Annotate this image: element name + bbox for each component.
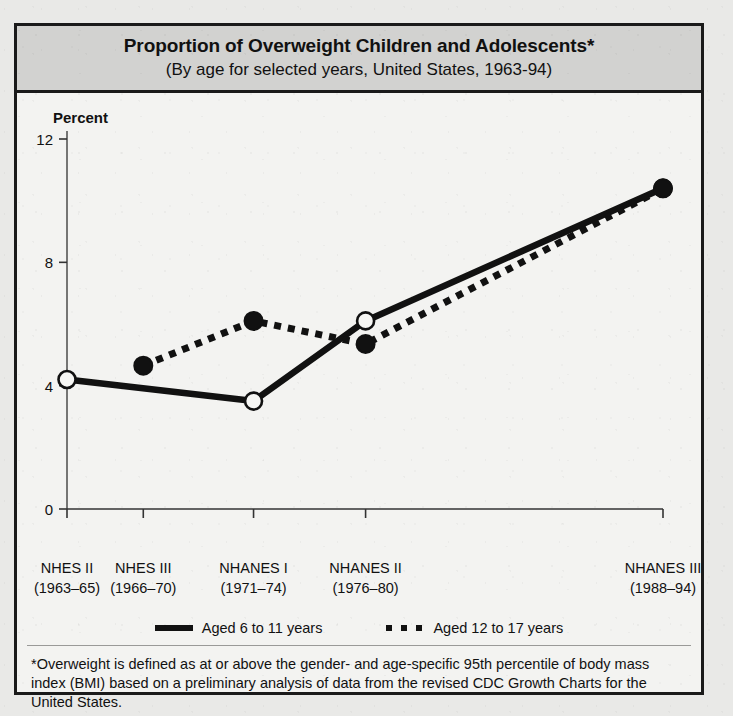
figure-title-band: Proportion of Overweight Children and Ad…: [17, 26, 701, 93]
y-tick-label: 4: [45, 378, 53, 395]
y-tick-label: 12: [36, 131, 53, 148]
legend-item-2[interactable]: Aged 12 to 17 years: [386, 620, 563, 636]
data-point-s2-3: [357, 335, 375, 353]
figure-footnote: *Overweight is defined as at or above th…: [17, 646, 701, 712]
data-point-s2-2: [245, 312, 263, 330]
x-axis-label-period: (1971–74): [219, 579, 288, 599]
plot-area: Percent 04812: [17, 93, 701, 553]
data-point-s1-3: [357, 313, 374, 330]
figure-frame: Proportion of Overweight Children and Ad…: [14, 23, 704, 695]
x-axis-label-1: NHES II(1963–65): [34, 559, 100, 598]
legend-solid-line-icon: [155, 625, 193, 631]
data-point-s2-4: [654, 180, 672, 198]
x-axis-label-name: NHES III: [110, 559, 176, 579]
x-axis-label-4: NHANES II(1976–80): [329, 559, 402, 598]
legend-label: Aged 6 to 11 years: [202, 620, 323, 636]
legend-label: Aged 12 to 17 years: [433, 620, 563, 636]
x-axis-labels: NHES II(1963–65)NHES III(1966–70)NHANES …: [17, 553, 701, 611]
x-axis-label-2: NHES III(1966–70): [110, 559, 176, 598]
legend-dotted-line-icon: [386, 625, 424, 631]
data-point-s1-2: [245, 393, 262, 410]
x-axis-label-period: (1976–80): [329, 579, 402, 599]
series-line-1: [67, 189, 663, 402]
data-point-s1-0: [59, 371, 76, 388]
figure-title: Proportion of Overweight Children and Ad…: [27, 35, 691, 57]
x-axis-label-5: NHANES III(1988–94): [625, 559, 702, 598]
x-axis-label-name: NHANES II: [329, 559, 402, 579]
x-axis-label-name: NHES II: [34, 559, 100, 579]
x-axis-label-period: (1988–94): [625, 579, 702, 599]
x-axis-label-period: (1966–70): [110, 579, 176, 599]
x-axis-label-3: NHANES I(1971–74): [219, 559, 288, 598]
legend-item-1[interactable]: Aged 6 to 11 years: [155, 620, 323, 636]
x-axis-label-period: (1963–65): [34, 579, 100, 599]
x-axis-label-name: NHANES III: [625, 559, 702, 579]
series-line-2: [143, 189, 663, 366]
y-tick-label: 0: [45, 501, 53, 518]
figure-subtitle: (By age for selected years, United State…: [27, 60, 691, 80]
y-tick-label: 8: [45, 255, 53, 272]
x-axis-label-name: NHANES I: [219, 559, 288, 579]
chart-legend: Aged 6 to 11 yearsAged 12 to 17 years: [17, 611, 701, 645]
data-point-s2-1: [134, 357, 152, 375]
line-chart-svg: 04812: [17, 93, 701, 553]
